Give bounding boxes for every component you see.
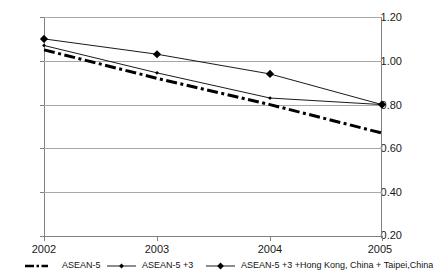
data-point-2-3: [378, 101, 386, 109]
series-line-2: [44, 39, 382, 105]
legend-label-asean5-plus3: ASEAN-5 +3: [142, 260, 193, 271]
legend-label-asean5-plus3-hk-taipei: ASEAN-5 +3 +Hong Kong, China + Taipei,Ch…: [241, 260, 433, 271]
chart-legend: ASEAN-5 ASEAN-5 +3 ASEAN-5 +3 +Hong Kong…: [0, 258, 402, 276]
data-point-1-0: [42, 44, 46, 48]
legend-swatch-dash-dot: [24, 258, 58, 272]
series-line-1: [44, 45, 382, 104]
data-point-2-1: [153, 50, 161, 58]
data-point-1-2: [268, 96, 272, 100]
series-line-0: [44, 50, 382, 133]
legend-swatch-line-diamond: [205, 258, 239, 272]
data-point-2-2: [266, 70, 274, 78]
legend-label-asean5: ASEAN-5: [62, 260, 101, 271]
data-point-1-1: [155, 71, 159, 75]
data-point-2-0: [40, 35, 48, 43]
legend-swatch-line-marker: [106, 258, 140, 272]
